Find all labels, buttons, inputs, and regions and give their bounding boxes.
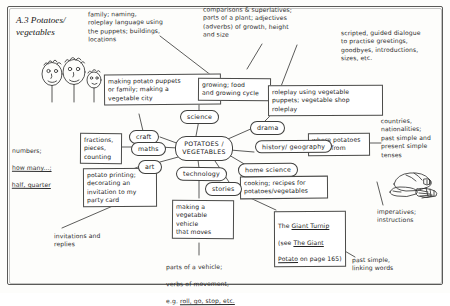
potato-food-drawing: [384, 166, 446, 206]
story-reference-title-part2: Potato: [278, 256, 298, 263]
note-family: family; naming, roleplay language using …: [88, 9, 208, 44]
activity-box-vegetable-vehicle: making a vegetable vehicle that moves: [172, 200, 234, 240]
note-numbers: numbers; how many...; half, quarter: [12, 139, 74, 190]
subject-pill-stories[interactable]: stories: [205, 182, 242, 196]
note-imperatives: imperatives; instructions: [377, 208, 447, 225]
subject-pill-science[interactable]: science: [180, 110, 219, 124]
note-countries: countries, nationalities; past simple an…: [381, 117, 447, 160]
activity-box-cooking: cooking; recipes for potatoes/vegetables: [240, 176, 328, 199]
activity-box-roleplay: roleplay using vegetable puppets; vegeta…: [268, 85, 383, 116]
story-line-2-pre: (see: [278, 239, 293, 246]
story-reference-page: on page 165): [298, 255, 342, 262]
potato-puppets-drawing: [32, 54, 112, 110]
activity-box-fractions: fractions, pieces, counting: [80, 133, 122, 164]
subject-pill-art[interactable]: art: [138, 160, 162, 174]
subject-pill-home-science[interactable]: home science: [238, 163, 298, 178]
numbers-line-2: how many...;: [12, 164, 52, 171]
note-vehicle-language: parts of a vehicle; verbs of movement, e…: [166, 255, 286, 306]
subject-pill-technology[interactable]: technology: [176, 167, 227, 181]
note-comparisons: comparisons & superlatives; parts of a p…: [203, 6, 338, 41]
activity-box-story: The Giant Turnip (see The Giant Potato o…: [274, 211, 346, 267]
activity-box-growing: growing; food and growing cycle: [198, 78, 271, 101]
numbers-line-3: half, quarter: [12, 181, 51, 188]
subject-pill-drama[interactable]: drama: [250, 121, 285, 135]
note-past-simple: past simple, linking words: [352, 256, 422, 273]
numbers-line-1: numbers;: [12, 147, 42, 154]
subject-pill-maths[interactable]: maths: [131, 142, 166, 156]
vehicle-line-3-pre: e.g.: [166, 297, 180, 304]
note-invitations: invitations and replies: [54, 232, 134, 250]
note-dialogue: scripted, guided dialogue to practise gr…: [341, 29, 449, 63]
vehicle-line-1: parts of a vehicle;: [166, 263, 222, 270]
vehicle-line-3-verbs: roll, go, stop, etc.: [180, 297, 235, 304]
story-title: Giant Turnip: [292, 222, 330, 229]
story-line-1-pre: The: [278, 222, 292, 229]
story-reference-title-part1: The Giant: [293, 239, 323, 246]
vehicle-line-2: verbs of movement,: [166, 280, 229, 287]
central-topic-node[interactable]: POTATOES / VEGETABLES: [175, 136, 233, 161]
subject-pill-history-geography[interactable]: history/ geography: [255, 140, 332, 154]
